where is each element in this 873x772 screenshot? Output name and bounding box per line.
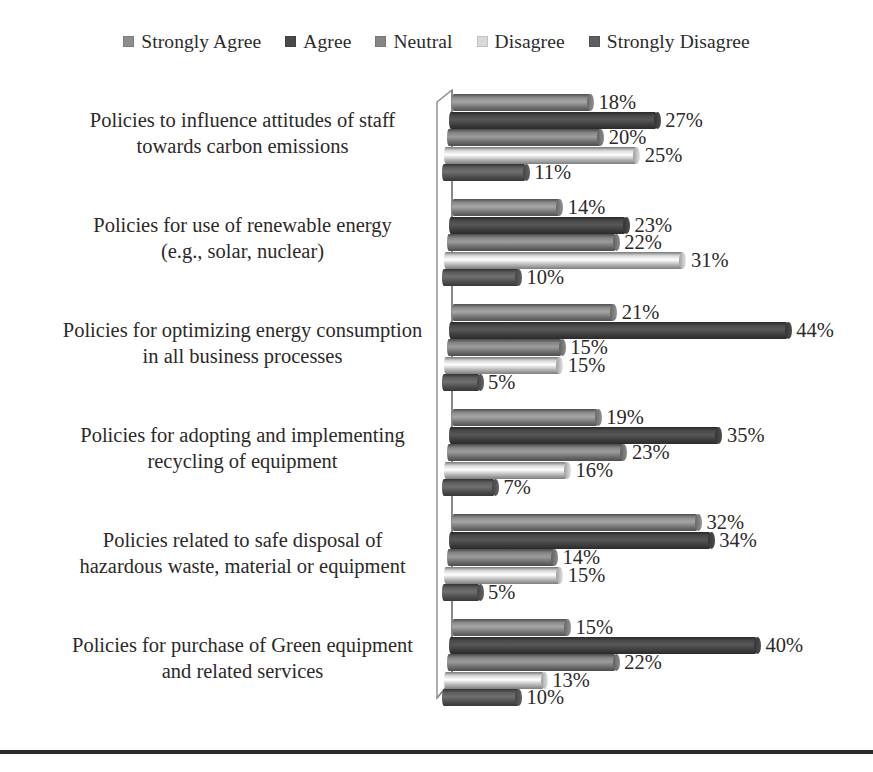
bar-strongly-disagree[interactable] bbox=[442, 689, 519, 706]
bar-strongly-agree[interactable] bbox=[452, 409, 598, 426]
legend-item-neutral[interactable]: Neutral bbox=[375, 32, 452, 51]
bar-neutral[interactable] bbox=[447, 234, 616, 251]
bar-row: 15% bbox=[444, 357, 600, 374]
bottom-rule bbox=[0, 750, 873, 754]
bar-agree[interactable] bbox=[449, 322, 788, 339]
legend-label: Agree bbox=[303, 32, 351, 51]
bar-strongly-agree[interactable] bbox=[452, 199, 560, 216]
bar-value-label: 40% bbox=[765, 634, 803, 657]
bar-row: 44% bbox=[449, 322, 828, 339]
bar-end-cap bbox=[477, 374, 484, 391]
bar-row: 5% bbox=[442, 374, 521, 391]
bar-end-cap bbox=[556, 567, 563, 584]
bar-end-cap bbox=[551, 549, 558, 566]
bar-strongly-agree[interactable] bbox=[452, 619, 568, 636]
legend-item-agree[interactable]: Agree bbox=[285, 32, 351, 51]
bar-strongly-disagree[interactable] bbox=[442, 479, 496, 496]
bar-value-label: 7% bbox=[503, 476, 530, 499]
bar-end-cap bbox=[613, 234, 620, 251]
bar-end-cap bbox=[523, 164, 530, 181]
legend-item-strongly-disagree[interactable]: Strongly Disagree bbox=[589, 32, 750, 51]
chart-legend: Strongly AgreeAgreeNeutralDisagreeStrong… bbox=[0, 32, 873, 51]
legend-label: Strongly Agree bbox=[141, 32, 261, 51]
bar-row: 10% bbox=[442, 269, 559, 286]
square-swatch-icon bbox=[285, 36, 296, 47]
bar-value-label: 22% bbox=[624, 651, 662, 674]
bar-row: 31% bbox=[444, 252, 723, 269]
bar-row: 11% bbox=[442, 164, 567, 181]
bar-end-cap bbox=[610, 304, 617, 321]
bar-end-cap bbox=[620, 444, 627, 461]
bar-value-label: 15% bbox=[568, 564, 606, 587]
bar-row: 21% bbox=[452, 304, 654, 321]
bar-neutral[interactable] bbox=[447, 129, 601, 146]
bar-end-cap bbox=[613, 654, 620, 671]
bar-agree[interactable] bbox=[449, 427, 719, 444]
bar-value-label: 11% bbox=[534, 161, 571, 184]
bar-end-cap bbox=[556, 357, 563, 374]
bar-end-cap bbox=[564, 462, 571, 479]
bar-end-cap bbox=[597, 129, 604, 146]
legend-label: Strongly Disagree bbox=[607, 32, 750, 51]
bar-strongly-agree[interactable] bbox=[452, 304, 614, 321]
bar-row: 23% bbox=[447, 444, 664, 461]
chart-plot-area: Policies to influence attitudes of staff… bbox=[0, 80, 873, 740]
bar-end-cap bbox=[708, 532, 715, 549]
bar-row: 35% bbox=[449, 427, 759, 444]
bar-row: 20% bbox=[447, 129, 641, 146]
bar-strongly-disagree[interactable] bbox=[442, 164, 527, 181]
bar-agree[interactable] bbox=[449, 217, 626, 234]
square-swatch-icon bbox=[375, 36, 386, 47]
bar-strongly-disagree[interactable] bbox=[442, 269, 519, 286]
bar-row: 22% bbox=[447, 234, 656, 251]
bar-end-cap bbox=[754, 637, 761, 654]
bar-end-cap bbox=[515, 269, 522, 286]
bar-value-label: 35% bbox=[727, 424, 765, 447]
bar-end-cap bbox=[785, 322, 792, 339]
bar-row: 10% bbox=[442, 689, 559, 706]
bar-value-label: 15% bbox=[568, 354, 606, 377]
bar-end-cap bbox=[564, 619, 571, 636]
bar-end-cap bbox=[587, 94, 594, 111]
bar-strongly-agree[interactable] bbox=[452, 94, 591, 111]
bar-end-cap bbox=[595, 409, 602, 426]
bar-end-cap bbox=[559, 339, 566, 356]
bar-neutral[interactable] bbox=[447, 654, 616, 671]
bar-row: 14% bbox=[452, 199, 600, 216]
bar-row: 7% bbox=[442, 479, 536, 496]
bar-row: 27% bbox=[449, 112, 697, 129]
legend-item-strongly-agree[interactable]: Strongly Agree bbox=[123, 32, 261, 51]
bar-row: 15% bbox=[452, 619, 608, 636]
bar-row: 34% bbox=[449, 532, 751, 549]
bar-value-label: 25% bbox=[645, 144, 683, 167]
legend-label: Neutral bbox=[393, 32, 452, 51]
bar-groups: 18%27%20%25%11%14%23%22%31%10%21%44%15%1… bbox=[0, 80, 873, 740]
bar-row: 18% bbox=[452, 94, 631, 111]
bar-agree[interactable] bbox=[449, 637, 757, 654]
bar-neutral[interactable] bbox=[447, 549, 555, 566]
bar-end-cap bbox=[679, 252, 686, 269]
bar-value-label: 23% bbox=[632, 441, 670, 464]
bar-end-cap bbox=[695, 514, 702, 531]
bar-value-label: 10% bbox=[527, 266, 565, 289]
bar-end-cap bbox=[654, 112, 661, 129]
bar-strongly-disagree[interactable] bbox=[442, 584, 481, 601]
bar-row: 19% bbox=[452, 409, 638, 426]
bar-end-cap bbox=[477, 584, 484, 601]
bar-end-cap bbox=[715, 427, 722, 444]
bar-end-cap bbox=[556, 199, 563, 216]
bar-neutral[interactable] bbox=[447, 339, 563, 356]
legend-item-disagree[interactable]: Disagree bbox=[477, 32, 565, 51]
bar-row: 32% bbox=[452, 514, 738, 531]
bar-row: 15% bbox=[444, 567, 600, 584]
bar-end-cap bbox=[492, 479, 499, 496]
legend-label: Disagree bbox=[495, 32, 565, 51]
bar-value-label: 16% bbox=[575, 459, 613, 482]
bar-value-label: 5% bbox=[488, 371, 515, 394]
square-swatch-icon bbox=[123, 36, 134, 47]
bar-value-label: 10% bbox=[527, 686, 565, 709]
bar-strongly-agree[interactable] bbox=[452, 514, 698, 531]
square-swatch-icon bbox=[589, 36, 600, 47]
bar-value-label: 34% bbox=[719, 529, 757, 552]
bar-strongly-disagree[interactable] bbox=[442, 374, 481, 391]
